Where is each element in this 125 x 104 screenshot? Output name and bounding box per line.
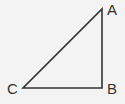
triangle-abc: [23, 9, 102, 88]
triangle-diagram: A B C: [0, 0, 125, 104]
vertex-label-b: B: [107, 81, 117, 96]
vertex-label-c: C: [7, 81, 18, 96]
vertex-label-a: A: [107, 2, 117, 17]
